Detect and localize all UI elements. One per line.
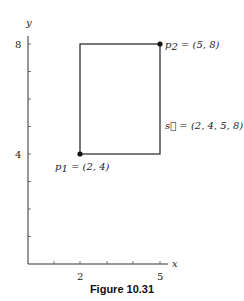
y-axis-label: y (25, 17, 32, 28)
label-p2: p2 = (5, 8) (165, 39, 220, 52)
x-tick-label-5: 5 (157, 271, 163, 280)
x-tick-label-2: 2 (77, 271, 83, 280)
bounding-rectangle (80, 44, 160, 154)
y-tick-label-8: 8 (15, 39, 21, 50)
y-tick-label-4: 4 (15, 149, 21, 160)
figure-caption: Figure 10.31 (0, 283, 244, 295)
point-p1 (77, 151, 82, 156)
point-p2 (157, 41, 162, 46)
figure-canvas: y x 8 4 2 5 p1 = (2, 4) p2 = (5, 8) s⃗ =… (0, 0, 244, 280)
x-axis-label: x (172, 258, 178, 269)
label-s-vector: s⃗ = (2, 4, 5, 8) (165, 120, 243, 131)
label-p1: p1 = (2, 4) (55, 161, 110, 174)
